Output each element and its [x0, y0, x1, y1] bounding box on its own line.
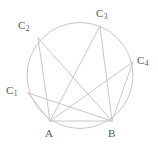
vertex-label-subscript: 4 — [145, 59, 149, 68]
vertex-label-subscript: 2 — [26, 24, 30, 33]
chord-a-c4 — [50, 62, 133, 121]
vertex-label-subscript: 3 — [104, 12, 108, 21]
chord-b-c4 — [112, 62, 133, 121]
vertex-label-base: C — [18, 19, 26, 31]
vertex-label-c3: C3 — [96, 8, 108, 19]
vertex-label-c4: C4 — [137, 55, 149, 66]
circle-chord-diagram: ABC1C2C3C4 — [0, 0, 158, 144]
vertex-label-base: A — [45, 127, 53, 139]
chord-a-c3 — [50, 26, 100, 121]
vertex-label-base: B — [108, 127, 116, 139]
vertex-label-b: B — [108, 128, 116, 139]
vertex-label-c1: C1 — [6, 85, 18, 96]
vertex-label-base: C — [6, 84, 14, 96]
vertex-label-a: A — [45, 128, 53, 139]
vertex-label-c2: C2 — [18, 20, 30, 31]
vertex-label-base: C — [96, 7, 104, 19]
vertex-label-subscript: 1 — [14, 89, 18, 98]
vertex-label-base: C — [137, 54, 145, 66]
chord-b-c3 — [100, 26, 112, 121]
